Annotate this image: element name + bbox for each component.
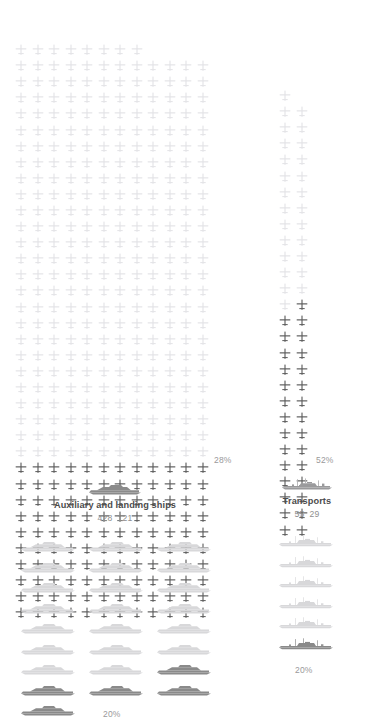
aircraft-icon bbox=[63, 235, 80, 251]
aircraft-icon bbox=[162, 316, 179, 332]
aircraft-icon bbox=[178, 444, 195, 460]
aircraft-icon bbox=[145, 155, 162, 171]
ship-icon bbox=[82, 599, 150, 620]
aircraft-icon bbox=[162, 203, 179, 219]
aircraft-icon bbox=[112, 139, 129, 155]
aircraft-icon bbox=[112, 122, 129, 138]
aircraft-icon bbox=[195, 251, 212, 267]
aircraft-icon bbox=[112, 316, 129, 332]
aircraft-icon bbox=[13, 428, 30, 444]
aircraft-icon bbox=[63, 396, 80, 412]
aircraft-icon bbox=[13, 187, 30, 203]
ship-icon bbox=[14, 558, 82, 579]
pictogram-spacer bbox=[145, 42, 162, 58]
aircraft-icon bbox=[13, 139, 30, 155]
aircraft-icon bbox=[145, 428, 162, 444]
aircraft-icon bbox=[178, 139, 195, 155]
ship-icon bbox=[272, 552, 340, 573]
aircraft-icon bbox=[294, 152, 311, 168]
aircraft-icon bbox=[30, 348, 47, 364]
aircraft-icon bbox=[46, 460, 63, 476]
aircraft-icon bbox=[63, 251, 80, 267]
aircraft-icon bbox=[30, 412, 47, 428]
aircraft-icon bbox=[96, 203, 113, 219]
aircraft-icon bbox=[277, 346, 294, 362]
aircraft-icon bbox=[96, 300, 113, 316]
aircraft-icon bbox=[178, 332, 195, 348]
aircraft-icon bbox=[145, 139, 162, 155]
aircraft-icon bbox=[129, 219, 146, 235]
aircraft-icon bbox=[178, 412, 195, 428]
aircraft-icon bbox=[145, 460, 162, 476]
aircraft-icon bbox=[79, 219, 96, 235]
pictogram-spacer bbox=[178, 42, 195, 58]
aircraft-icon bbox=[129, 332, 146, 348]
aircraft-icon bbox=[46, 316, 63, 332]
aircraft-icon bbox=[30, 187, 47, 203]
aircraft-icon bbox=[294, 458, 311, 474]
aircraft-icon bbox=[294, 426, 311, 442]
aircraft-icon bbox=[30, 219, 47, 235]
aircraft-icon bbox=[79, 364, 96, 380]
aircraft-icon bbox=[96, 380, 113, 396]
aircraft-icon bbox=[13, 106, 30, 122]
aircraft-icon bbox=[294, 297, 311, 313]
aircraft-icon bbox=[63, 300, 80, 316]
aircraft-icon bbox=[162, 283, 179, 299]
category-value-secondary: 29 bbox=[310, 509, 320, 519]
ship-icon bbox=[272, 531, 340, 552]
aircraft-icon bbox=[30, 300, 47, 316]
aircraft-icon bbox=[129, 348, 146, 364]
percent-label-planes-auxiliary: 28% bbox=[214, 455, 232, 465]
aircraft-icon bbox=[96, 251, 113, 267]
aircraft-icon bbox=[13, 74, 30, 90]
aircraft-icon bbox=[79, 171, 96, 187]
aircraft-icon bbox=[79, 139, 96, 155]
aircraft-icon bbox=[195, 444, 212, 460]
aircraft-icon bbox=[178, 106, 195, 122]
aircraft-icon bbox=[195, 219, 212, 235]
aircraft-icon bbox=[112, 106, 129, 122]
aircraft-icon bbox=[195, 58, 212, 74]
aircraft-icon bbox=[46, 380, 63, 396]
aircraft-icon bbox=[162, 235, 179, 251]
aircraft-icon bbox=[294, 329, 311, 345]
aircraft-icon bbox=[13, 122, 30, 138]
category-value-total: 428 bbox=[98, 513, 113, 523]
aircraft-icon bbox=[195, 300, 212, 316]
ship-icon bbox=[272, 593, 340, 614]
aircraft-icon bbox=[79, 460, 96, 476]
aircraft-icon bbox=[162, 58, 179, 74]
aircraft-icon bbox=[195, 396, 212, 412]
aircraft-icon bbox=[162, 122, 179, 138]
aircraft-icon bbox=[145, 348, 162, 364]
aircraft-icon bbox=[162, 106, 179, 122]
pictogram-grid-planes-transports bbox=[277, 88, 310, 539]
aircraft-icon bbox=[129, 74, 146, 90]
aircraft-icon bbox=[79, 396, 96, 412]
aircraft-icon bbox=[162, 444, 179, 460]
aircraft-icon bbox=[145, 106, 162, 122]
aircraft-icon bbox=[112, 187, 129, 203]
aircraft-icon bbox=[63, 364, 80, 380]
ship-icon bbox=[14, 537, 82, 558]
aircraft-icon bbox=[178, 235, 195, 251]
aircraft-icon bbox=[277, 120, 294, 136]
aircraft-icon bbox=[79, 187, 96, 203]
ship-icon bbox=[82, 681, 150, 702]
aircraft-icon bbox=[178, 187, 195, 203]
aircraft-icon bbox=[145, 74, 162, 90]
aircraft-icon bbox=[30, 235, 47, 251]
aircraft-icon bbox=[30, 42, 47, 58]
aircraft-icon bbox=[129, 364, 146, 380]
aircraft-icon bbox=[112, 90, 129, 106]
aircraft-icon bbox=[79, 122, 96, 138]
aircraft-icon bbox=[63, 316, 80, 332]
aircraft-icon bbox=[30, 122, 47, 138]
aircraft-icon bbox=[195, 428, 212, 444]
aircraft-icon bbox=[96, 58, 113, 74]
aircraft-icon bbox=[277, 458, 294, 474]
aircraft-icon bbox=[79, 251, 96, 267]
aircraft-icon bbox=[162, 90, 179, 106]
aircraft-icon bbox=[145, 203, 162, 219]
